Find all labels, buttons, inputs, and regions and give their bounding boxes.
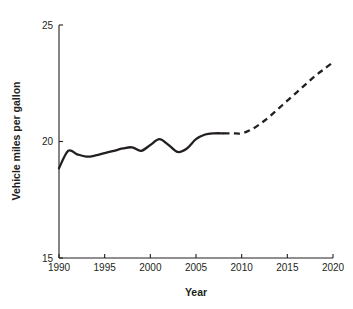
series-projected-line: [223, 62, 333, 133]
x-tick-label: 2005: [185, 262, 208, 273]
x-tick-label: 2015: [276, 262, 299, 273]
y-tick-label: 25: [42, 20, 54, 31]
y-axis: 152025: [42, 20, 63, 264]
x-axis-tick-labels: 1990199520002005201020152020: [48, 262, 345, 273]
x-tick-label: 2000: [139, 262, 162, 273]
x-tick-label: 1990: [48, 262, 71, 273]
x-tick-label: 1995: [94, 262, 117, 273]
plot-area: [59, 62, 333, 168]
x-tick-label: 2010: [231, 262, 254, 273]
line-chart: 152025 1990199520002005201020152020 Year…: [0, 0, 353, 309]
x-axis-title: Year: [185, 286, 207, 298]
y-axis-ticks: [59, 25, 63, 258]
x-axis-ticks: [59, 254, 333, 258]
x-tick-label: 2020: [322, 262, 345, 273]
y-axis-title: Vehicle miles per gallon: [10, 81, 22, 200]
x-axis: 1990199520002005201020152020: [48, 254, 345, 273]
y-tick-label: 20: [42, 136, 54, 147]
chart-container: 152025 1990199520002005201020152020 Year…: [0, 0, 353, 309]
series-historical-line: [59, 133, 223, 168]
y-axis-tick-labels: 152025: [42, 20, 54, 264]
